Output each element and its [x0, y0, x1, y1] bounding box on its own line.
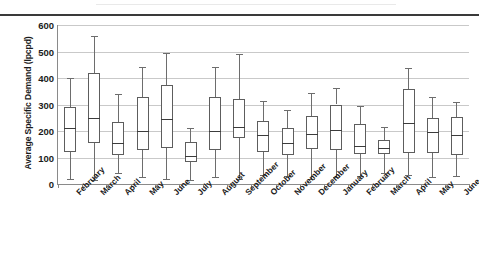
upper-whisker [287, 110, 288, 127]
upper-whisker [142, 67, 143, 97]
x-axis-tick-label: January [340, 190, 347, 197]
upper-whisker [432, 97, 433, 118]
median-line [233, 127, 245, 128]
lower-whisker [70, 152, 71, 179]
box-iqr-rect [378, 140, 390, 153]
max-cap [381, 127, 388, 128]
y-axis-tick-label: 200 [38, 126, 54, 137]
max-cap [139, 67, 146, 68]
max-cap [429, 97, 436, 98]
x-axis-tick-label: November [292, 190, 299, 197]
upper-whisker [263, 101, 264, 121]
max-cap [308, 93, 315, 94]
box-iqr-rect [88, 73, 100, 143]
max-cap [212, 67, 219, 68]
box-iqr-rect [427, 118, 439, 153]
y-axis-tick-label: 600 [38, 20, 54, 31]
box-plot-group [372, 25, 396, 184]
upper-whisker [456, 102, 457, 117]
median-line [88, 118, 100, 119]
lower-whisker [142, 150, 143, 178]
x-axis-tick-label: June [171, 190, 178, 197]
max-cap [163, 53, 170, 54]
box-plot-group [155, 25, 179, 184]
median-line [185, 156, 197, 157]
median-line [282, 143, 294, 144]
max-cap [333, 88, 340, 89]
x-axis-tick-label: May [147, 190, 154, 197]
min-cap [453, 176, 460, 177]
box-plot-group [445, 25, 469, 184]
box-iqr-rect [257, 121, 269, 152]
x-axis-tick-label: September [243, 190, 250, 197]
y-axis-tick-label: 100 [38, 152, 54, 163]
lower-whisker [456, 155, 457, 176]
median-line [137, 131, 149, 132]
max-cap [91, 36, 98, 37]
lower-whisker [408, 153, 409, 175]
median-line [330, 130, 342, 131]
box-plot-group [203, 25, 227, 184]
x-axis-tick-label: July [195, 190, 202, 197]
median-line [427, 132, 439, 133]
box-iqr-rect [161, 85, 173, 149]
max-cap [405, 68, 412, 69]
min-cap [139, 177, 146, 178]
max-cap [187, 128, 194, 129]
median-line [161, 119, 173, 120]
upper-whisker [311, 93, 312, 117]
x-axis-tick [58, 184, 59, 188]
max-cap [453, 102, 460, 103]
upper-whisker [408, 68, 409, 89]
upper-whisker [239, 54, 240, 99]
max-cap [67, 78, 74, 79]
upper-whisker [118, 94, 119, 122]
x-axis-tick-label: December [316, 190, 323, 197]
min-cap [212, 177, 219, 178]
plot-area: 0100200300400500600 [57, 25, 469, 185]
upper-whisker [70, 78, 71, 107]
median-line [403, 123, 415, 124]
upper-whisker [336, 88, 337, 104]
median-line [306, 134, 318, 135]
x-axis-tick-label: February [74, 190, 81, 197]
max-cap [236, 54, 243, 55]
box-iqr-rect [282, 128, 294, 155]
x-axis-tick-label: April [122, 190, 129, 197]
box-plot-group [276, 25, 300, 184]
x-axis-tick-label: June [461, 190, 468, 197]
figure-top-rule [0, 14, 479, 16]
x-axis-tick-label: August [219, 190, 226, 197]
lower-whisker [190, 162, 191, 180]
box-plot-group [106, 25, 130, 184]
x-axis-tick-label: February [364, 190, 371, 197]
box-iqr-rect [330, 105, 342, 150]
median-line [209, 131, 221, 132]
box-plot-group [227, 25, 251, 184]
y-axis-title: Average Specific Demand (lpcpd) [23, 13, 33, 193]
upper-whisker [360, 106, 361, 124]
x-axis-tick-label: October [268, 190, 275, 197]
upper-whisker [94, 36, 95, 74]
median-line [112, 143, 124, 144]
max-cap [115, 94, 122, 95]
box-iqr-rect [137, 97, 149, 149]
y-axis-tick-label: 0 [49, 179, 54, 190]
box-plot-group [421, 25, 445, 184]
x-axis-tick-label: May [437, 190, 444, 197]
y-axis-tick-label: 300 [38, 99, 54, 110]
median-line [451, 135, 463, 136]
box-plot-figure: Average Specific Demand (lpcpd) 01002003… [0, 0, 479, 258]
x-axis-labels: FebruaryMarchAprilMayJuneJulyAugustSepte… [57, 190, 468, 258]
box-plot-group [179, 25, 203, 184]
box-plot-group [58, 25, 82, 184]
median-line [257, 135, 269, 136]
box-plot-group [348, 25, 372, 184]
upper-whisker [190, 128, 191, 142]
x-axis-tick-label: March [388, 190, 395, 197]
box-iqr-rect [233, 99, 245, 139]
median-line [354, 146, 366, 147]
max-cap [284, 110, 291, 111]
box-iqr-rect [185, 142, 197, 163]
box-iqr-rect [209, 97, 221, 151]
